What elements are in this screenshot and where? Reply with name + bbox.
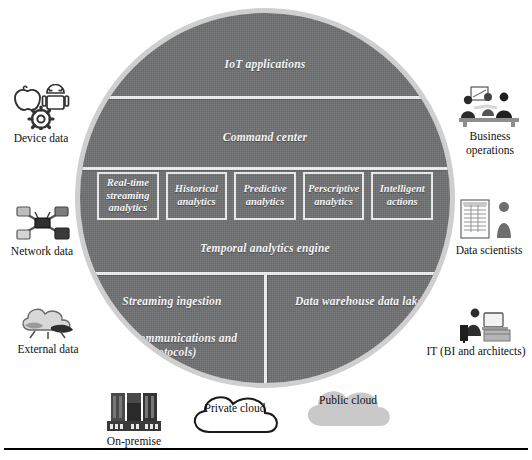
consumer-business-operations-label: Business operations <box>448 130 532 158</box>
deployment-on-premise[interactable]: On-premise <box>86 391 182 449</box>
deployment-public-cloud[interactable]: Public cloud <box>296 386 400 434</box>
consumer-it-bi-architects[interactable]: IT (BI and architects) <box>420 303 532 359</box>
cloud-filled-icon <box>296 386 400 432</box>
source-device-data[interactable]: Device data <box>2 84 80 146</box>
deployment-private-cloud[interactable]: Private cloud <box>183 392 287 440</box>
analytics-box-intelligent-actions[interactable]: Intelligent actions <box>371 172 433 220</box>
divider-applications-command <box>80 96 450 99</box>
consumer-it-bi-architects-label: IT (BI and architects) <box>420 345 532 359</box>
analytics-box-historical-analytics[interactable]: Historical analytics <box>166 172 228 220</box>
consumer-data-scientists[interactable]: Data scientists <box>446 198 532 258</box>
cloud-external-icon <box>15 303 81 341</box>
source-network-data-label: Network data <box>2 245 82 259</box>
analytics-box-perscriptive-analytics[interactable]: Perscriptive analytics <box>303 172 365 220</box>
divider-command-analytics <box>80 167 450 170</box>
analytics-box-real-time-streaming-analytics[interactable]: Real-time streaming analytics <box>97 172 159 220</box>
device-apple-android-gear-icon <box>10 84 72 130</box>
bottom-rule <box>4 448 528 450</box>
deployment-private-cloud-label: Private cloud <box>183 402 287 416</box>
data-scientist-report-icon <box>457 198 521 242</box>
analytics-box-predictive-analytics[interactable]: Predictive analytics <box>234 172 296 220</box>
consumer-data-scientists-label: Data scientists <box>446 244 532 258</box>
network-router-icon <box>11 203 73 243</box>
deployment-public-cloud-label: Public cloud <box>296 394 400 408</box>
server-building-icon <box>105 391 163 435</box>
business-people-icon <box>457 84 523 128</box>
source-external-data[interactable]: External data <box>2 303 94 357</box>
band-label-temporal-analytics-engine: Temporal analytics engine <box>80 241 450 255</box>
circle-body: IoT applications Command center Real-tim… <box>80 13 450 383</box>
divider-ingestion-warehouse <box>264 275 267 383</box>
consumer-business-operations[interactable]: Business operations <box>448 84 532 158</box>
it-person-desk-icon <box>454 303 520 343</box>
diagram-canvas: IoT applications Command center Real-tim… <box>0 0 532 460</box>
band-label-iot-applications: IoT applications <box>80 57 450 71</box>
analytics-box-row: Real-time streaming analytics Historical… <box>80 172 450 220</box>
source-network-data[interactable]: Network data <box>2 203 82 259</box>
segment-title-streaming-ingestion: Streaming ingestion <box>80 294 264 308</box>
deployment-on-premise-label: On-premise <box>107 435 161 447</box>
band-label-command-center: Command center <box>80 130 450 144</box>
segment-subtitle-streaming-ingestion: (IOT communications and protocols) <box>92 331 252 359</box>
source-external-data-label: External data <box>2 343 94 357</box>
iot-architecture-circle: IoT applications Command center Real-tim… <box>75 8 455 388</box>
source-device-data-label: Device data <box>2 132 80 146</box>
